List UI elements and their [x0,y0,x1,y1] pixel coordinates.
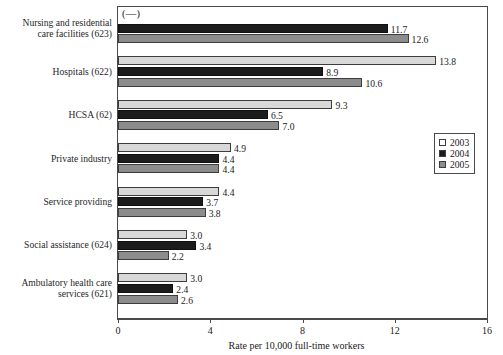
bar-2003 [118,100,332,109]
x-axis-tick-label: 0 [116,325,121,337]
x-axis-title: Rate per 10,000 full-time workers [0,340,503,352]
category-label: Social assistance (624) [0,239,112,251]
bar-2003 [118,230,187,239]
bar-2005 [118,295,178,304]
legend-swatch-icon-2003 [439,139,446,146]
x-axis-tick-label: 12 [390,325,400,337]
legend-item-2003[interactable]: 2003 [439,137,469,148]
bar-value-label: 6.5 [271,111,283,120]
x-axis-tick-label: 16 [482,325,492,337]
bar-value-label: 10.6 [365,79,382,88]
bar-2005 [118,34,409,43]
bar-2005 [118,251,169,260]
bar-value-label: 4.9 [234,144,246,153]
bar-value-label: 3.8 [209,209,221,218]
bar-2003 [118,187,219,196]
x-axis-title-text: Rate per 10,000 full-time workers [139,340,365,351]
bar-value-label: 3.0 [190,274,202,283]
bar-value-label: 3.7 [206,198,218,207]
legend-swatch-icon-2005 [439,161,446,168]
legend-label-2005: 2005 [450,159,469,170]
x-axis-tick-label: 4 [208,325,213,337]
category-label: HCSA (62) [0,109,112,121]
bar-value-label: 13.8 [439,57,456,66]
bar-2003 [118,56,436,65]
bar-2005 [118,121,279,130]
bar-2004 [118,197,203,206]
bar-2004 [118,24,388,33]
bar-value-label: 4.4 [222,165,234,174]
category-label: Ambulatory health care services (621) [0,277,112,300]
bar-2004 [118,241,196,250]
x-axis-tick [118,319,119,323]
bar-value-label: 9.3 [335,101,347,110]
bar-value-label: 4.4 [222,155,234,164]
bar-value-label: 2.2 [172,252,184,261]
category-label: Hospitals (622) [0,66,112,78]
bar-value-label: 3.0 [190,231,202,240]
legend-label-2004: 2004 [450,148,469,159]
bar-value-label: 7.0 [282,122,294,131]
legend-item-2004[interactable]: 2004 [439,148,469,159]
bar-value-label: 4.4 [222,188,234,197]
bar-2004 [118,284,173,293]
bar-2004 [118,154,219,163]
x-axis-tick [210,319,211,323]
category-label: Private industry [0,153,112,165]
bar-2003 [118,273,187,282]
bar-chart-figure: (—) Nursing and residential care facilit… [0,0,503,355]
bar-value-label: 11.7 [391,25,407,34]
legend-swatch-icon-2004 [439,150,446,157]
bar-value-label: 2.6 [181,296,193,305]
bar-2005 [118,208,206,217]
bar-value-label: 8.9 [326,68,338,77]
missing-data-marker: (—) [122,8,140,20]
category-label: Service providing [0,196,112,208]
legend-label-2003: 2003 [450,137,469,148]
bar-2003 [118,143,231,152]
x-axis-tick-label: 8 [300,325,305,337]
bar-2004 [118,110,268,119]
bar-2005 [118,164,219,173]
bar-value-label: 12.6 [412,35,429,44]
x-axis-tick [487,319,488,323]
bar-value-label: 3.4 [199,242,211,251]
x-axis-tick [303,319,304,323]
bar-2005 [118,78,362,87]
legend-item-2005[interactable]: 2005 [439,159,469,170]
bar-2004 [118,67,323,76]
category-label: Nursing and residential care facilities … [0,17,112,40]
legend: 2003 2004 2005 [434,133,475,174]
bar-value-label: 2.4 [176,285,188,294]
x-axis-tick [395,319,396,323]
